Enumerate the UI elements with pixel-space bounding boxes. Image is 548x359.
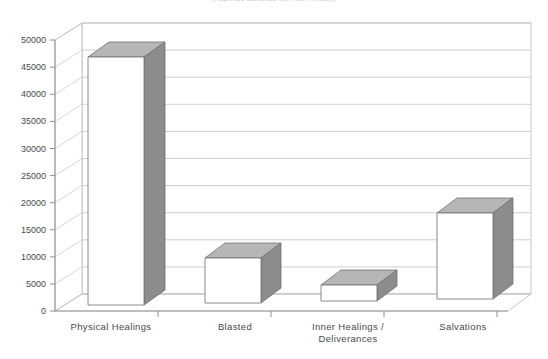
bar-front-face — [437, 213, 493, 299]
y-tick-label-30000: 30000 — [0, 144, 46, 154]
bar-side-face — [144, 42, 165, 305]
x-category-label-inner-healings-deliverances: Inner Healings / Deliverances — [278, 321, 418, 345]
x-category-label-line-1: Inner Healings / — [312, 321, 384, 332]
y-tick-label-0: 0 — [0, 306, 46, 316]
x-category-label-line-2: Deliverances — [318, 333, 377, 344]
bar-front-face — [205, 258, 261, 303]
y-tick-label-10000: 10000 — [0, 252, 46, 262]
y-tick-label-50000: 50000 — [0, 35, 46, 45]
bar-salvations — [437, 198, 513, 299]
chart-screenshot: (Reported statistics from our ministry) — [0, 0, 548, 359]
chart-y-ticks — [50, 40, 55, 311]
y-tick-label-15000: 15000 — [0, 225, 46, 235]
y-tick-label-20000: 20000 — [0, 198, 46, 208]
bar-front-face — [88, 57, 144, 305]
x-category-label-salvations: Salvations — [398, 321, 528, 333]
y-tick-label-45000: 45000 — [0, 62, 46, 72]
y-tick-label-5000: 5000 — [0, 279, 46, 289]
y-tick-label-40000: 40000 — [0, 89, 46, 99]
chart-x-ticks — [158, 311, 497, 317]
bar-blasted — [205, 243, 281, 303]
bar-physical-healings — [88, 42, 165, 305]
bar-front-face — [321, 285, 377, 301]
chart-plot-area — [0, 0, 548, 359]
x-category-label-physical-healings: Physical Healings — [46, 321, 176, 333]
y-tick-label-35000: 35000 — [0, 116, 46, 126]
y-tick-label-25000: 25000 — [0, 171, 46, 181]
bar-side-face — [493, 198, 513, 299]
